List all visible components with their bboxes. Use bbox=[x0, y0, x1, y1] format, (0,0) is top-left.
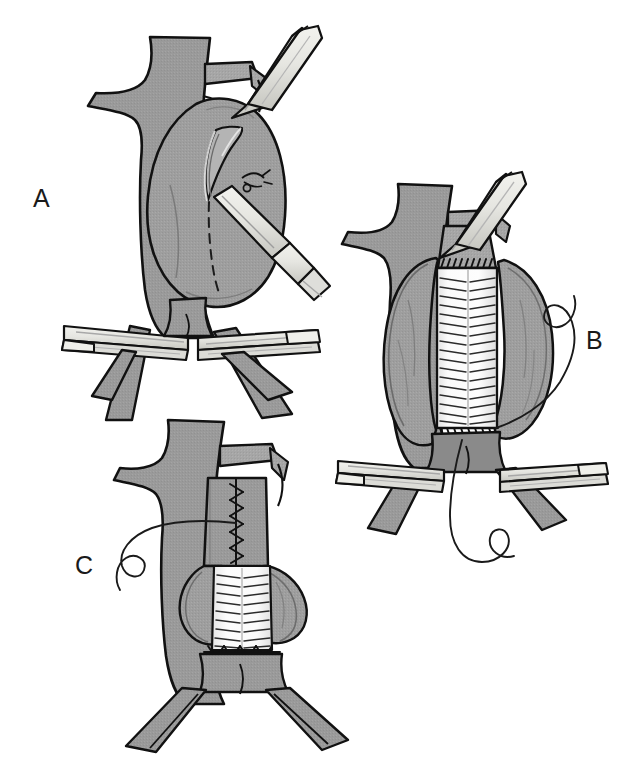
aortic-bifurcation-b bbox=[426, 432, 506, 472]
aaa-repair-illustration bbox=[0, 0, 643, 760]
figure-root: A B C bbox=[0, 0, 643, 760]
panel-label-a: A bbox=[33, 186, 50, 211]
aortic-bifurcation-c bbox=[200, 654, 288, 692]
panel-label-c: C bbox=[75, 553, 94, 578]
panel-label-b: B bbox=[586, 328, 603, 353]
